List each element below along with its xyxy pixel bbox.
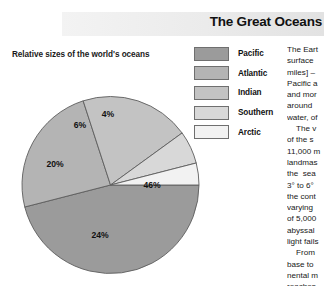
pie-value-label-pacific: 46% [143, 180, 161, 190]
pie-value-label-indian: 20% [46, 159, 64, 169]
article-body-column: The Eart surface miles] – Pacific a and … [287, 44, 324, 286]
legend-label: Pacific [238, 49, 264, 58]
chart-legend: PacificAtlanticIndianSouthernArctic [194, 44, 282, 142]
pie-slice-atlantic[interactable] [22, 101, 111, 207]
pie-chart-svg: 46%24%20%6%4% [0, 0, 324, 286]
legend-item-southern[interactable]: Southern [194, 103, 282, 123]
legend-swatch-indian [194, 86, 229, 100]
pie-value-label-atlantic: 24% [91, 230, 109, 240]
legend-item-arctic[interactable]: Arctic [194, 122, 282, 142]
legend-label: Arctic [238, 128, 261, 137]
pie-slice-indian[interactable] [83, 96, 182, 185]
legend-item-indian[interactable]: Indian [194, 83, 282, 103]
legend-item-atlantic[interactable]: Atlantic [194, 64, 282, 84]
legend-item-pacific[interactable]: Pacific [194, 44, 282, 64]
pie-slice-labels: 46%24%20%6%4% [46, 109, 161, 240]
legend-swatch-southern [194, 106, 229, 120]
legend-swatch-arctic [194, 125, 229, 139]
pie-slices [22, 96, 199, 273]
chart-caption: Relative sizes of the world's oceans [12, 50, 150, 59]
legend-label: Indian [238, 88, 262, 97]
pie-slice-southern[interactable] [111, 133, 197, 185]
pie-slice-arctic[interactable] [111, 163, 200, 185]
legend-swatch-pacific [194, 47, 229, 61]
body-paragraph: The v of the s 11,000 m landmas the sea … [287, 123, 324, 247]
legend-swatch-atlantic [194, 66, 229, 80]
page-title: The Great Oceans [210, 14, 322, 29]
pie-value-label-arctic: 4% [102, 109, 115, 119]
pie-value-label-southern: 6% [74, 120, 87, 130]
legend-label: Atlantic [238, 69, 267, 78]
body-paragraph: From base to nental m reaches [287, 247, 324, 286]
body-paragraph: The Eart surface miles] – Pacific a and … [287, 44, 324, 123]
pie-slice-pacific[interactable] [25, 185, 199, 274]
pie-chart: 46%24%20%6%4% [0, 0, 324, 286]
legend-label: Southern [238, 108, 273, 117]
